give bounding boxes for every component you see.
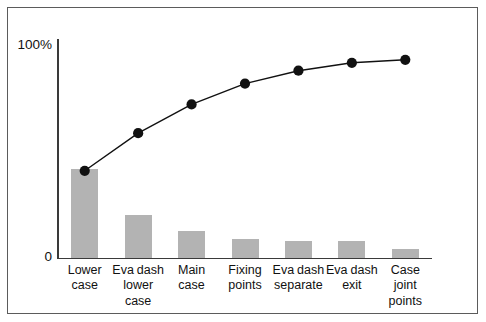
x-axis-label-1-line-1: Lower <box>58 263 111 278</box>
x-axis-category-labels: LowercaseEva dashlowercaseMaincaseFixing… <box>58 263 432 315</box>
x-axis-label-2-line-1: Eva dash <box>111 263 164 278</box>
x-axis-label-1-line-2: case <box>58 278 111 293</box>
cumulative-marker-3 <box>186 99 196 109</box>
x-axis-label-6-line-1: Eva dash <box>325 263 378 278</box>
cumulative-line <box>85 60 406 171</box>
x-axis-label-7-line-3: points <box>379 294 432 309</box>
x-axis-label-5-line-2: separate <box>272 278 325 293</box>
x-axis-label-3-line-1: Main <box>165 263 218 278</box>
plot-area <box>58 40 432 258</box>
bar-7 <box>392 249 419 258</box>
y-axis-tick-label-0: 0 <box>44 250 52 264</box>
x-axis-label-5: Eva dashseparate <box>272 263 325 294</box>
cumulative-line-layer <box>58 40 432 258</box>
pareto-chart: 100% 0 LowercaseEva dashlowercaseMaincas… <box>0 0 486 322</box>
x-axis-label-4-line-1: Fixing <box>218 263 271 278</box>
cumulative-marker-4 <box>240 79 250 89</box>
x-axis-label-6-line-2: exit <box>325 278 378 293</box>
x-axis-label-7-line-1: Case <box>379 263 432 278</box>
cumulative-marker-2 <box>133 128 143 138</box>
bar-6 <box>338 241 365 258</box>
x-axis-label-2-line-2: lower <box>111 278 164 293</box>
x-axis-label-6: Eva dashexit <box>325 263 378 294</box>
bar-1 <box>71 169 98 258</box>
x-axis-label-3: Maincase <box>165 263 218 294</box>
x-axis-label-1: Lowercase <box>58 263 111 294</box>
x-axis-label-2: Eva dashlowercase <box>111 263 164 309</box>
x-axis-label-4: Fixingpoints <box>218 263 271 294</box>
bar-3 <box>178 231 205 258</box>
x-axis-label-7: Casejointpoints <box>379 263 432 309</box>
cumulative-marker-7 <box>400 55 410 65</box>
x-axis-label-2-line-3: case <box>111 294 164 309</box>
x-axis-label-5-line-1: Eva dash <box>272 263 325 278</box>
bar-5 <box>285 241 312 258</box>
cumulative-marker-6 <box>347 58 357 68</box>
cumulative-markers <box>80 55 411 176</box>
x-axis-label-4-line-2: points <box>218 278 271 293</box>
x-axis-label-3-line-2: case <box>165 278 218 293</box>
cumulative-marker-5 <box>293 66 303 76</box>
x-axis-label-7-line-2: joint <box>379 278 432 293</box>
bar-2 <box>125 215 152 258</box>
y-axis-tick-label-100: 100% <box>17 38 52 52</box>
bar-4 <box>232 239 259 258</box>
